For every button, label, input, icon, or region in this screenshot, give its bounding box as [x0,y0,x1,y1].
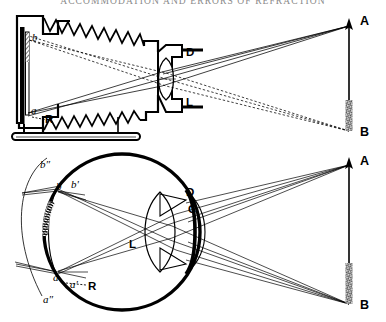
label-image-bottom-a: a [31,104,37,116]
label-cornea-C: C [188,203,196,215]
label-object-top-A: A [360,14,369,28]
camera-baseboard [12,133,140,140]
object-arrow-feather-top [346,100,353,131]
label-object-top-A-eye: A [360,154,369,168]
label-ground-glass-R: R [45,113,54,125]
label-focus-front-top-b1: b' [71,178,80,190]
label-image-top-b: b [32,31,38,43]
label-iris-D: D [186,186,194,198]
label-object-bottom-B: B [360,125,369,139]
label-focus-behind-top-b2: b″ [40,158,51,170]
figure-canvas: b a R D L A B [0,0,386,322]
label-focus-front-bottom-a1: a' [70,278,79,290]
object-arrow-feather-bottom [346,263,353,304]
object-arrow-top [345,18,353,131]
figure-bottom-eye: b″ b b' a a' a″ R D C L A B [15,154,369,312]
eyeball-sclera [44,154,200,310]
illustration-page: ACCOMMODATION AND ERRORS OF REFRACTION [0,0,386,322]
inverted-image-strip [26,33,29,62]
label-lens-L-eye: L [129,238,136,250]
label-lens-L: L [186,96,193,108]
camera-back-standard [20,27,25,124]
label-retina-image-top-b: b [56,180,62,192]
label-retina-image-bottom-a: a [53,271,59,283]
object-arrow-bottom [345,157,353,304]
label-diaphragm-D: D [186,46,194,58]
label-retina-R: R [88,280,97,292]
label-object-bottom-B-eye: B [360,298,369,312]
label-focus-behind-bottom-a2: a″ [43,293,54,305]
figure-top-camera: b a R D L A B [12,14,369,140]
